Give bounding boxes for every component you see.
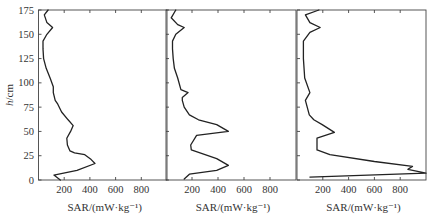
chart-panels: 200400600800SAR/(mW·kg⁻¹)200400600800SAR…: [39, 10, 427, 214]
y-tick-label: 125: [18, 53, 34, 64]
x-axis-title: SAR/(mW·kg⁻¹): [68, 201, 143, 214]
y-tick-label: 100: [18, 77, 34, 88]
sar-curve: [43, 10, 95, 180]
y-axis: 0255075100125150175: [18, 5, 34, 186]
y-axis-title: h/cm: [3, 84, 15, 106]
x-tick-label: 200: [315, 184, 331, 195]
sar-curve: [303, 10, 426, 177]
y-tick-label: 175: [18, 5, 34, 16]
panel-frame: [297, 10, 426, 180]
panel-1: 200400600800SAR/(mW·kg⁻¹): [39, 10, 168, 214]
panel-3: 200400600800SAR/(mW·kg⁻¹): [297, 10, 426, 214]
x-tick-label: 200: [56, 184, 72, 195]
x-tick-label: 400: [210, 184, 226, 195]
panel-frame: [39, 10, 168, 180]
y-tick-label: 0: [29, 175, 34, 186]
y-tick-label: 50: [24, 126, 35, 137]
panel-2: 200400600800SAR/(mW·kg⁻¹): [166, 10, 296, 214]
y-tick-label: 75: [24, 102, 35, 113]
sar-height-chart: 0255075100125150175 200400600800SAR/(mW·…: [0, 0, 436, 215]
x-tick-label: 400: [341, 184, 357, 195]
x-tick-label: 800: [392, 184, 408, 195]
x-tick-label: 600: [236, 184, 252, 195]
x-tick-label: 800: [262, 184, 278, 195]
x-tick-label: 600: [367, 184, 383, 195]
x-tick-label: 800: [133, 184, 149, 195]
x-tick-label: 200: [184, 184, 200, 195]
y-tick-label: 150: [18, 29, 34, 40]
x-axis-title: SAR/(mW·kg⁻¹): [196, 201, 271, 214]
x-axis-title: SAR/(mW·kg⁻¹): [326, 201, 401, 214]
sar-curve: [171, 10, 228, 179]
x-tick-label: 400: [82, 184, 98, 195]
y-tick-label: 25: [24, 150, 35, 161]
x-tick-label: 600: [108, 184, 124, 195]
